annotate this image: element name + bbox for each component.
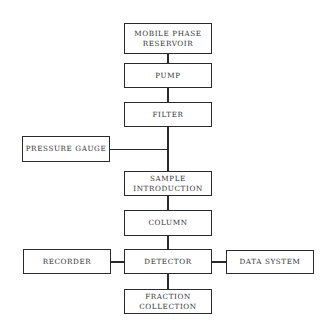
pressure-gauge-node: PRESSURE GAUGE [22,136,110,162]
connector-recorder-detector [111,261,124,263]
connector-detector-datasystem [212,261,226,263]
connector-reservoir-pump [167,54,169,63]
connector-pressure-gauge [110,149,168,151]
column-node: COLUMN [124,210,212,236]
mobile-phase-reservoir-node: MOBILE PHASE RESERVOIR [124,23,212,54]
connector-detector-fraction [167,274,169,289]
detector-node: DETECTOR [124,249,212,274]
connector-sample-column [167,196,169,210]
data-system-node: DATA SYSTEM [226,250,314,274]
sample-introduction-node: SAMPLE INTRODUCTION [124,171,212,196]
recorder-node: RECORDER [23,249,111,274]
filter-node: FILTER [124,102,212,127]
fraction-collection-node: FRACTION COLLECTION [124,289,212,314]
connector-pump-filter [167,88,169,102]
connector-column-detector [167,236,169,249]
pump-node: PUMP [124,63,212,88]
